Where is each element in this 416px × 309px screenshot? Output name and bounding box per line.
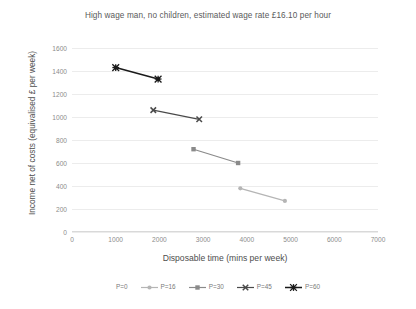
y-tick-label: 1000 (52, 114, 67, 121)
y-tick-label: 400 (56, 183, 67, 190)
legend-item-p0[interactable]: P=0 (96, 283, 128, 292)
x-tick-label: 0 (70, 236, 74, 243)
x-tick-label: 5000 (283, 236, 298, 243)
legend-marker-icon (189, 283, 206, 292)
y-tick-label: 200 (56, 206, 67, 213)
plot-area: 02004006008001000120014001600 0100020003… (72, 48, 378, 232)
y-tick-label: 1600 (52, 45, 67, 52)
x-axis-label: Disposable time (mins per week) (72, 253, 378, 263)
gridline (72, 232, 378, 233)
x-axis-line (72, 231, 378, 232)
data-series (238, 186, 287, 203)
x-tick-label: 4000 (240, 236, 255, 243)
legend-marker-icon (141, 283, 158, 292)
data-series (112, 64, 161, 82)
data-series (151, 107, 202, 122)
gridline (72, 209, 378, 210)
legend-marker-icon (96, 283, 113, 292)
legend-item-p45[interactable]: P=45 (237, 283, 272, 292)
legend-item-p60[interactable]: P=60 (285, 283, 320, 292)
legend-item-p30[interactable]: P=30 (189, 283, 224, 292)
y-tick-label: 1400 (52, 68, 67, 75)
legend-marker-icon (237, 283, 254, 292)
legend-marker-icon (285, 283, 302, 292)
y-tick-label: 800 (56, 137, 67, 144)
legend-label: P=60 (305, 284, 320, 290)
data-series (191, 147, 240, 165)
data-series-layer (72, 48, 372, 198)
legend-label: P=0 (116, 284, 128, 290)
y-tick-label: 0 (63, 229, 67, 236)
x-tick-label: 1000 (108, 236, 123, 243)
legend-label: P=30 (209, 284, 224, 290)
x-tick-label: 3000 (196, 236, 211, 243)
x-tick-label: 6000 (327, 236, 342, 243)
legend-item-p16[interactable]: P=16 (141, 283, 176, 292)
chart-legend: P=0P=16P=30P=45P=60 (0, 283, 416, 292)
chart-container: High wage man, no children, estimated wa… (0, 0, 416, 309)
y-axis-label: Income net of costs (equivalised £ per w… (27, 28, 37, 238)
legend-label: P=45 (257, 284, 272, 290)
y-tick-label: 600 (56, 160, 67, 167)
legend-label: P=16 (161, 284, 176, 290)
x-tick-label: 7000 (371, 236, 386, 243)
x-tick-label: 2000 (152, 236, 167, 243)
chart-title: High wage man, no children, estimated wa… (0, 11, 416, 20)
y-tick-label: 1200 (52, 91, 67, 98)
